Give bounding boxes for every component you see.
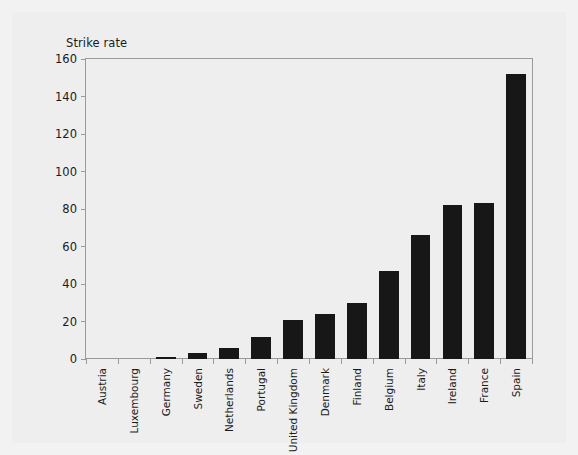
bar-series [86, 59, 532, 359]
y-axis-tick: 120 [55, 127, 86, 141]
x-axis-label-slot: Netherlands [213, 364, 245, 444]
bar [251, 337, 271, 360]
bar-slot [405, 59, 437, 359]
x-axis-tick-label: Denmark [319, 368, 331, 416]
x-axis-tick-label: Finland [351, 368, 363, 406]
bar [347, 303, 367, 359]
x-axis-label-slot: Austria [86, 364, 118, 444]
bar-slot [213, 59, 245, 359]
x-axis-tick-label: Portugal [255, 368, 267, 412]
chart-card: Strike rate 020406080100120140160 Austri… [12, 12, 566, 443]
x-axis-labels: AustriaLuxembourgGermanySwedenNetherland… [86, 364, 532, 444]
x-axis-tick-label: Luxembourg [128, 368, 140, 433]
x-axis-label-slot: United Kingdom [277, 364, 309, 444]
bar-slot [150, 59, 182, 359]
x-axis-label-slot: Germany [150, 364, 182, 444]
y-axis-tick-label: 0 [70, 352, 81, 366]
y-axis-tick-label: 80 [62, 202, 81, 216]
x-axis-label-slot: Luxembourg [118, 364, 150, 444]
x-axis-tick-label: Ireland [446, 368, 458, 404]
bar-slot [118, 59, 150, 359]
x-axis-label-slot: Spain [500, 364, 532, 444]
bar-slot [309, 59, 341, 359]
y-axis-tick-label: 140 [55, 90, 81, 104]
y-axis-tick: 20 [62, 315, 86, 329]
y-axis-tick-label: 20 [62, 315, 81, 329]
y-axis-tick: 80 [62, 202, 86, 216]
x-axis-tick-label: Italy [415, 368, 427, 391]
x-axis-tick-label: United Kingdom [287, 368, 299, 452]
bar-slot [341, 59, 373, 359]
bar-slot [436, 59, 468, 359]
bar [219, 348, 239, 359]
x-axis-label-slot: Finland [341, 364, 373, 444]
y-axis-tick-label: 100 [55, 165, 81, 179]
x-axis-tick-label: Spain [510, 368, 522, 397]
x-axis-label-slot: Ireland [436, 364, 468, 444]
x-axis-tick-label: Germany [160, 368, 172, 416]
x-axis-label-slot: France [468, 364, 500, 444]
y-axis-tick: 60 [62, 240, 86, 254]
bar [283, 320, 303, 359]
y-axis-tick: 160 [55, 52, 86, 66]
bar [474, 203, 494, 359]
x-axis-label-slot: Portugal [245, 364, 277, 444]
bar-slot [277, 59, 309, 359]
bar-slot [468, 59, 500, 359]
x-axis-tick-label: France [478, 368, 490, 403]
y-axis-tick-label: 40 [62, 277, 81, 291]
y-axis-tick: 100 [55, 165, 86, 179]
bar-slot [373, 59, 405, 359]
bar-slot [182, 59, 214, 359]
plot-area: 020406080100120140160 [86, 59, 532, 359]
x-axis-tick-label: Austria [96, 368, 108, 405]
x-axis-label-slot: Sweden [182, 364, 214, 444]
y-axis-tick-label: 120 [55, 127, 81, 141]
bar [411, 235, 431, 359]
bar [379, 271, 399, 359]
bar-slot [245, 59, 277, 359]
x-axis-tick-label: Sweden [192, 368, 204, 410]
y-axis-title: Strike rate [66, 36, 127, 50]
bar-slot [500, 59, 532, 359]
bar [315, 314, 335, 359]
y-axis-tick: 0 [70, 352, 86, 366]
x-axis-label-slot: Belgium [373, 364, 405, 444]
y-axis-tick: 140 [55, 90, 86, 104]
bar [506, 74, 526, 359]
x-axis-tick-label: Netherlands [223, 368, 235, 432]
x-axis-label-slot: Italy [405, 364, 437, 444]
y-axis-tick-label: 60 [62, 240, 81, 254]
y-axis-tick-label: 160 [55, 52, 81, 66]
y-axis-tick: 40 [62, 277, 86, 291]
bar-slot [86, 59, 118, 359]
x-axis-tick-label: Belgium [383, 368, 395, 411]
x-axis-tick-mark [532, 359, 533, 364]
bar [443, 205, 463, 359]
x-axis-label-slot: Denmark [309, 364, 341, 444]
